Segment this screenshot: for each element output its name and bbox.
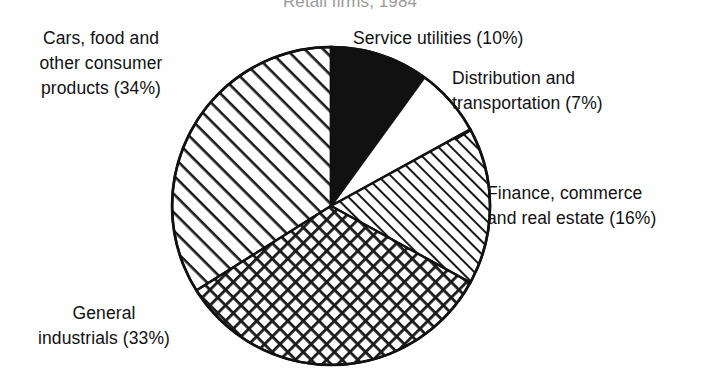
chart-title: Retail firms, 1984	[150, 0, 550, 14]
slice-label-distribution-transportation: Distribution and transportation (7%)	[452, 66, 682, 116]
slice-label-finance-commerce-realestate: Finance, commerce and real estate (16%)	[487, 181, 703, 231]
slice-label-general-industrials: General industrials (33%)	[0, 301, 208, 351]
slice-label-cars-food-consumer: Cars, food and other consumer products (…	[6, 26, 196, 101]
pie-chart-figure: Retail firms, 1984 Cars, food and other …	[0, 0, 703, 391]
slice-label-service-utilities: Service utilities (10%)	[353, 26, 593, 51]
